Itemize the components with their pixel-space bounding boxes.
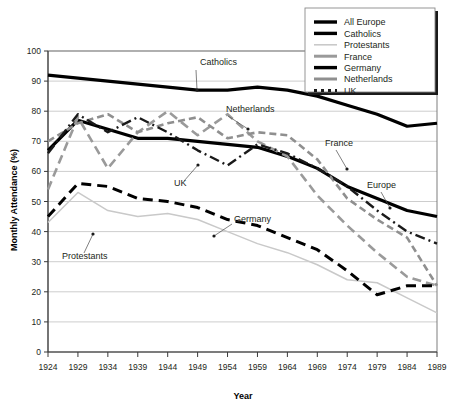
- y-axis: 0102030405060708090100: [27, 46, 48, 357]
- y-tick-label: 60: [32, 166, 42, 176]
- x-axis: 1924192919341939194419491954195919641969…: [39, 352, 447, 372]
- x-tick-label: 1929: [68, 362, 87, 372]
- y-tick-label: 20: [32, 287, 42, 297]
- y-tick-label: 80: [32, 106, 42, 116]
- y-tick-label: 100: [27, 46, 41, 56]
- annotation-label: Protestants: [62, 251, 108, 261]
- y-tick-label: 0: [36, 347, 41, 357]
- legend-label: Germany: [344, 63, 382, 73]
- y-axis-title: Monthly Attendance (%): [9, 149, 19, 251]
- annotation-label: Europe: [367, 180, 396, 190]
- y-tick-label: 30: [32, 257, 42, 267]
- annotation-leader: [228, 116, 248, 129]
- annotation-marker: [388, 206, 391, 209]
- legend-label: UK: [344, 86, 357, 96]
- annotation-marker: [196, 163, 199, 166]
- y-tick-label: 90: [32, 76, 42, 86]
- x-tick-label: 1934: [98, 362, 117, 372]
- y-tick-label: 50: [32, 197, 42, 207]
- x-tick-label: 1969: [308, 362, 327, 372]
- annotation-label: Catholics: [200, 57, 238, 67]
- y-tick-label: 10: [32, 317, 42, 327]
- x-tick-label: 1979: [368, 362, 387, 372]
- annotation-label: France: [325, 138, 353, 148]
- x-axis-title: Year: [233, 391, 253, 401]
- y-tick-label: 70: [32, 136, 42, 146]
- legend-label: Catholics: [344, 29, 382, 39]
- line-chart: 0102030405060708090100 19241929193419391…: [0, 0, 451, 410]
- x-tick-label: 1984: [398, 362, 417, 372]
- annotation-leader: [214, 224, 232, 236]
- x-tick-label: 1939: [128, 362, 147, 372]
- x-tick-label: 1959: [248, 362, 267, 372]
- annotation-label: Netherlands: [226, 104, 275, 114]
- chart-container: 0102030405060708090100 19241929193419391…: [0, 0, 451, 410]
- annotation-marker: [212, 234, 215, 237]
- x-tick-label: 1944: [158, 362, 177, 372]
- annotation-label: Germany: [234, 214, 272, 224]
- x-tick-label: 1954: [218, 362, 237, 372]
- annotation-leader: [196, 70, 197, 90]
- y-tick-label: 40: [32, 227, 42, 237]
- legend-label: France: [344, 52, 372, 62]
- x-tick-label: 1989: [428, 362, 447, 372]
- annotation-marker: [345, 167, 348, 170]
- annotation-marker: [246, 127, 249, 130]
- annotation-marker: [195, 88, 198, 91]
- x-tick-label: 1964: [278, 362, 297, 372]
- series-line-uk: [48, 114, 437, 243]
- x-tick-label: 1974: [338, 362, 357, 372]
- x-tick-label: 1924: [39, 362, 58, 372]
- annotation-leader: [336, 150, 347, 169]
- x-tick-label: 1949: [188, 362, 207, 372]
- legend: All EuropeCatholicsProtestantsFranceGerm…: [305, 8, 438, 96]
- legend-label: All Europe: [344, 17, 386, 27]
- legend-label: Protestants: [344, 40, 390, 50]
- annotation-marker: [91, 232, 94, 235]
- legend-label: Netherlands: [344, 74, 393, 84]
- annotation-label: UK: [174, 178, 187, 188]
